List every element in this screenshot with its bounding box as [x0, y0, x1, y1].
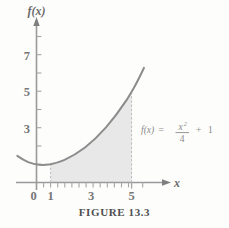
plot-area: 7 5 3 0 1 3 5 f(x) x f(x) = x 2 4 + 1: [0, 0, 229, 228]
x-tick-label-0: 0: [30, 189, 36, 203]
x-axis-arrowhead: [162, 179, 171, 185]
figure-container: 7 5 3 0 1 3 5 f(x) x f(x) = x 2 4 + 1 FI…: [0, 0, 229, 228]
formula-equals: =: [159, 125, 164, 135]
formula-plus: +: [196, 125, 201, 135]
x-axis-label: x: [173, 176, 180, 190]
x-tick-label-5: 5: [128, 189, 134, 203]
figure-caption: FIGURE 13.3: [0, 206, 229, 218]
formula-numerator-base: x: [178, 122, 184, 132]
formula-lhs: f(x): [141, 125, 154, 136]
y-axis-label: f(x): [28, 4, 46, 18]
shaded-area-under-curve: [51, 92, 132, 183]
y-tick-label-7: 7: [24, 49, 30, 63]
x-tick-label-3: 3: [88, 189, 94, 203]
function-formula-annotation: f(x) = x 2 4 + 1: [141, 120, 213, 144]
x-tick-label-1: 1: [47, 189, 53, 203]
y-axis-arrowhead: [33, 17, 39, 26]
formula-constant: 1: [208, 125, 213, 135]
y-tick-label-3: 3: [24, 122, 30, 136]
formula-numerator-exponent: 2: [184, 120, 188, 127]
y-tick-label-5: 5: [24, 85, 30, 99]
formula-denominator: 4: [180, 134, 185, 144]
